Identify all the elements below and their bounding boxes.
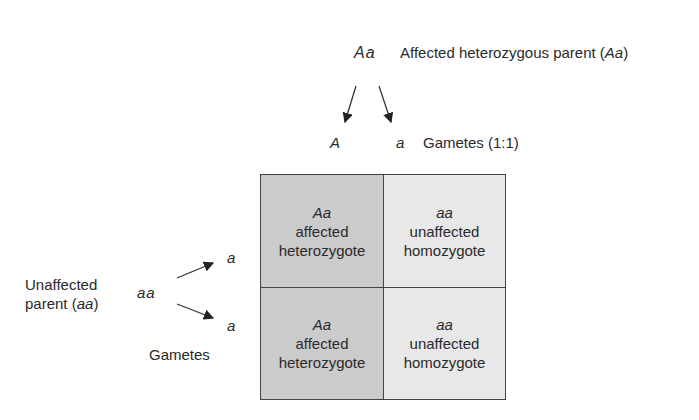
arrow-to-upper-a-gamete	[177, 263, 213, 278]
punnett-cell-affected-heterozygote: Aa affected heterozygote	[261, 175, 383, 287]
cell-phenotype: unaffected	[410, 222, 480, 241]
left-parent-label-text: parent (	[25, 295, 77, 312]
cell-zygosity: heterozygote	[279, 241, 366, 260]
cell-phenotype: affected	[295, 334, 348, 353]
cell-zygosity: homozygote	[404, 241, 486, 260]
punnett-square: Aa affected heterozygote aa unaffected h…	[260, 174, 506, 400]
gamete-a: a	[396, 135, 404, 150]
left-gamete-2: a	[227, 318, 235, 333]
punnett-cell-affected-heterozygote: Aa affected heterozygote	[261, 287, 383, 399]
left-gametes-label: Gametes	[149, 347, 210, 362]
left-parent-label-close: )	[93, 295, 98, 312]
cell-genotype: aa	[436, 315, 453, 334]
arrow-to-A-gamete	[345, 86, 356, 122]
top-gametes-label: Gametes (1:1)	[423, 135, 519, 150]
cell-genotype: Aa	[313, 203, 331, 222]
cell-zygosity: homozygote	[404, 353, 486, 372]
punnett-cell-unaffected-homozygote: aa unaffected homozygote	[383, 287, 505, 399]
left-gamete-1: a	[227, 250, 235, 265]
cell-zygosity: heterozygote	[279, 353, 366, 372]
cell-genotype: aa	[436, 203, 453, 222]
left-parent-genotype: aa	[137, 285, 156, 300]
gamete-A: A	[330, 135, 340, 150]
punnett-cell-unaffected-homozygote: aa unaffected homozygote	[383, 175, 505, 287]
cell-genotype: Aa	[313, 315, 331, 334]
cell-phenotype: affected	[295, 222, 348, 241]
left-parent-label-line2: parent (aa)	[25, 296, 98, 311]
left-parent-label-line1: Unaffected	[25, 277, 97, 292]
arrow-to-a-gamete	[379, 86, 391, 122]
left-parent-label-genotype: aa	[77, 295, 94, 312]
cell-phenotype: unaffected	[410, 334, 480, 353]
arrow-to-lower-a-gamete	[177, 304, 213, 318]
